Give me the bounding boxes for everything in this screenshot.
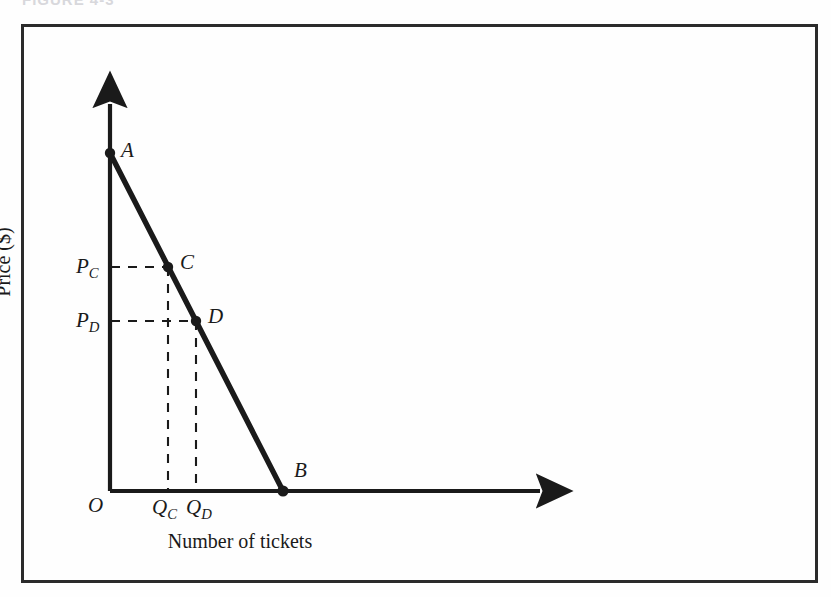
point-c-marker [163, 262, 173, 272]
y-axis-title: Price ($) [0, 202, 15, 322]
point-a-label: A [121, 140, 134, 161]
point-d-marker [191, 316, 201, 326]
quantity-c-sub: C [167, 506, 177, 522]
guide-lines-c [111, 267, 168, 490]
quantity-d-base: Q [186, 495, 201, 519]
point-b-label: B [294, 460, 307, 481]
demand-curve-plot [0, 0, 831, 597]
price-d-base: P [76, 308, 89, 332]
guide-lines-d [111, 321, 196, 490]
x-axis-title: Number of tickets [150, 530, 330, 553]
price-c-label: PC [76, 256, 99, 281]
price-d-label: PD [76, 310, 99, 335]
point-d-label: D [208, 306, 223, 327]
quantity-c-label: QC [152, 497, 177, 522]
point-b-marker [277, 485, 288, 496]
origin-label: O [88, 495, 103, 516]
price-c-base: P [76, 254, 89, 278]
quantity-c-base: Q [152, 495, 167, 519]
quantity-d-sub: D [201, 506, 212, 522]
point-a-marker [105, 148, 115, 158]
price-c-sub: C [89, 265, 99, 281]
quantity-d-label: QD [186, 497, 212, 522]
price-d-sub: D [89, 319, 100, 335]
figure-page: FIGURE 4-3 [0, 0, 831, 597]
point-c-label: C [180, 252, 194, 273]
